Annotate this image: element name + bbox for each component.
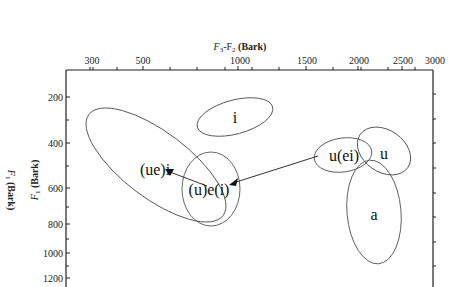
vowel-formant-chart: F3-F2 (Bark) 300 500 1000 1500 2000 2500… (0, 0, 464, 287)
x-axis-title: F3-F2 (Bark) (213, 41, 267, 54)
arrow-u-ei-to-u-e-i (233, 156, 318, 183)
x-tick-label: 500 (136, 55, 151, 66)
x-tick-label: 2000 (349, 55, 369, 66)
x-tick-label: 300 (85, 55, 100, 66)
y-tick-label: 400 (48, 138, 63, 149)
y-tick-label: 600 (48, 183, 63, 194)
label-u: u (380, 145, 388, 162)
y-axis-title: F1 (Bark) (29, 160, 42, 201)
x-tick-labels: 300 500 1000 1500 2000 2500 3000 (85, 55, 446, 66)
y-axis-title-mirrored: F1 (Bark) (4, 169, 17, 210)
arrowhead-icon (229, 178, 238, 186)
label-a: a (370, 206, 377, 223)
label-u-e-i: (u)e(i) (189, 181, 230, 199)
x-tick-label: 1500 (297, 55, 317, 66)
y-tick-label: 800 (48, 219, 63, 230)
y-tick-label: 1200 (43, 273, 63, 284)
label-ue-i: (ue)i (140, 161, 171, 179)
label-i: i (233, 109, 238, 126)
y-tick-label: 200 (48, 92, 63, 103)
y-tick-labels: 200 400 600 800 1000 1200 (43, 92, 63, 284)
x-tick-label: 1000 (230, 55, 250, 66)
y-tick-label: 1000 (43, 248, 63, 259)
label-u-ei: u(ei) (329, 147, 359, 165)
x-tick-label: 3000 (425, 55, 445, 66)
vowel-ellipses (69, 88, 420, 266)
x-tick-label: 2500 (393, 55, 413, 66)
vowel-labels: i (ue)i (u)e(i) u(ei) u a (140, 109, 388, 223)
